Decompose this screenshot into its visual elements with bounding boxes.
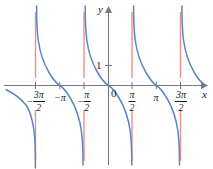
x-tick-label-3pi-2: 3π2 — [175, 90, 187, 113]
y-axis-label: y — [98, 4, 103, 15]
origin-label: 0 — [111, 88, 117, 99]
tangent-function-figure: y x 0 1 −3π2 −π −π2 π2 π 3π2 — [0, 0, 213, 169]
x-tick-label-pi: π — [153, 93, 158, 103]
numerator: 3π — [33, 90, 45, 102]
x-tick-label-neg-pi-2: −π2 — [78, 90, 91, 113]
denominator: 2 — [128, 102, 135, 114]
numerator: 3π — [175, 90, 187, 102]
plot-canvas — [0, 0, 213, 169]
denominator: 2 — [175, 102, 187, 114]
denominator: 2 — [33, 102, 45, 114]
curve-branch-right-tail — [182, 6, 204, 84]
x-tick-label-neg-3pi-2: −3π2 — [27, 90, 45, 113]
y-tick-label-1: 1 — [96, 60, 102, 71]
x-tick-label-neg-pi: −π — [54, 93, 66, 103]
x-axis-label: x — [202, 89, 207, 100]
denominator: 2 — [83, 102, 90, 114]
x-tick-label-pi-2: π2 — [128, 90, 135, 113]
numerator: π — [83, 90, 90, 102]
numerator: π — [128, 90, 135, 102]
